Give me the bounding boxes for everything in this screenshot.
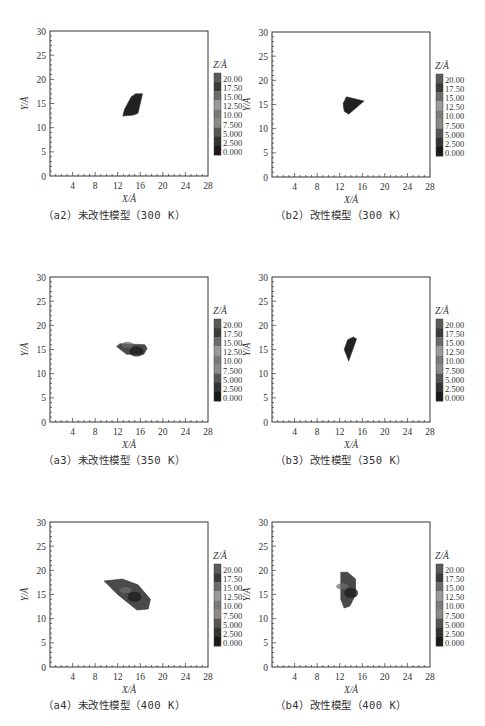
colorbar xyxy=(214,319,221,401)
y-tick-label: 5 xyxy=(41,393,46,403)
y-tick-label: 15 xyxy=(37,345,47,355)
chart-panel-a4: 481216202428051015202530X/ÅY/ÅZ/Å20.0017… xyxy=(0,490,242,726)
y-tick-label: 30 xyxy=(37,27,47,37)
x-tick-label: 20 xyxy=(380,672,390,682)
x-tick-label: 20 xyxy=(380,427,390,437)
y-tick-label: 10 xyxy=(37,369,47,379)
y-tick-label: 0 xyxy=(263,663,268,673)
panel-caption: （a2）未改性模型（300 K） xyxy=(43,207,185,222)
x-tick-label: 4 xyxy=(292,672,297,682)
y-tick-label: 0 xyxy=(41,418,46,428)
y-axis-label: Y/Å xyxy=(241,97,252,111)
chart-panel-a3: 481216202428051015202530X/ÅY/ÅZ/Å20.0017… xyxy=(0,245,242,485)
colorbar-tick-label: 0.000 xyxy=(445,638,464,648)
x-tick-label: 24 xyxy=(403,672,413,682)
x-tick-label: 12 xyxy=(335,427,345,437)
x-axis-label: X/Å xyxy=(343,684,358,695)
y-tick-label: 10 xyxy=(37,123,47,133)
y-tick-label: 15 xyxy=(259,345,269,355)
y-tick-label: 30 xyxy=(259,273,269,283)
y-tick-label: 10 xyxy=(259,124,269,134)
x-tick-label: 16 xyxy=(136,427,146,437)
contour-region xyxy=(104,579,150,610)
colorbar-tick-label: 0.000 xyxy=(445,148,464,158)
contour-region xyxy=(344,337,356,361)
x-tick-label: 28 xyxy=(203,181,213,191)
panel-caption: （a3）未改性模型（350 K） xyxy=(43,452,185,467)
chart-panel-a2: 481216202428051015202530X/ÅY/ÅZ/Å20.0017… xyxy=(0,0,242,240)
x-tick-label: 8 xyxy=(93,181,98,191)
x-axis-label: X/Å xyxy=(343,194,358,205)
y-tick-label: 20 xyxy=(37,75,47,85)
x-tick-label: 12 xyxy=(335,182,345,192)
colorbar-title: Z/Å xyxy=(213,59,227,70)
x-tick-label: 4 xyxy=(70,672,75,682)
colorbar-tick-label: 0.000 xyxy=(445,393,464,403)
y-axis-label: Y/Å xyxy=(19,342,30,356)
x-tick-label: 16 xyxy=(136,181,146,191)
y-tick-label: 30 xyxy=(37,518,47,528)
y-tick-label: 30 xyxy=(259,28,269,38)
y-tick-label: 10 xyxy=(259,369,269,379)
colorbar xyxy=(436,319,443,401)
colorbar-title: Z/Å xyxy=(435,550,449,561)
x-tick-label: 8 xyxy=(315,182,320,192)
colorbar-title: Z/Å xyxy=(213,550,227,561)
x-tick-label: 4 xyxy=(70,181,75,191)
x-tick-label: 20 xyxy=(380,182,390,192)
x-tick-label: 28 xyxy=(425,672,435,682)
y-tick-label: 15 xyxy=(259,590,269,600)
y-axis-label: Y/Å xyxy=(19,96,30,110)
x-tick-label: 28 xyxy=(203,672,213,682)
x-tick-label: 12 xyxy=(113,672,123,682)
y-tick-label: 20 xyxy=(37,321,47,331)
x-tick-label: 24 xyxy=(403,182,413,192)
x-tick-label: 28 xyxy=(203,427,213,437)
y-tick-label: 20 xyxy=(37,566,47,576)
x-tick-label: 12 xyxy=(113,181,123,191)
y-tick-label: 15 xyxy=(259,100,269,110)
y-tick-label: 25 xyxy=(37,542,47,552)
y-tick-label: 5 xyxy=(263,638,268,648)
y-axis-label: Y/Å xyxy=(19,587,30,601)
y-tick-label: 10 xyxy=(37,614,47,624)
colorbar-title: Z/Å xyxy=(435,305,449,316)
x-tick-label: 4 xyxy=(292,427,297,437)
y-tick-label: 25 xyxy=(259,52,269,62)
x-tick-label: 24 xyxy=(181,672,191,682)
y-tick-label: 10 xyxy=(259,614,269,624)
x-tick-label: 8 xyxy=(315,672,320,682)
y-tick-label: 5 xyxy=(263,148,268,158)
x-tick-label: 20 xyxy=(158,181,168,191)
x-tick-label: 12 xyxy=(113,427,123,437)
x-axis-label: X/Å xyxy=(343,439,358,450)
contour-region xyxy=(123,94,143,116)
x-tick-label: 4 xyxy=(70,427,75,437)
x-tick-label: 12 xyxy=(335,672,345,682)
x-tick-label: 16 xyxy=(136,672,146,682)
x-tick-label: 16 xyxy=(358,427,368,437)
y-axis-label: Y/Å xyxy=(241,587,252,601)
y-tick-label: 30 xyxy=(37,273,47,283)
y-tick-label: 25 xyxy=(37,297,47,307)
y-tick-label: 20 xyxy=(259,76,269,86)
colorbar xyxy=(436,74,443,156)
chart-panel-b4: 481216202428051015202530X/ÅY/ÅZ/Å20.0017… xyxy=(240,490,482,726)
panel-caption: （b2）改性模型（300 K） xyxy=(275,207,407,222)
colorbar xyxy=(436,564,443,646)
x-tick-label: 16 xyxy=(358,672,368,682)
contour-region xyxy=(343,97,364,114)
y-tick-label: 0 xyxy=(263,418,268,428)
y-axis-label: Y/Å xyxy=(241,342,252,356)
y-tick-label: 25 xyxy=(259,542,269,552)
y-tick-label: 15 xyxy=(37,590,47,600)
x-tick-label: 16 xyxy=(358,182,368,192)
y-tick-label: 20 xyxy=(259,566,269,576)
x-tick-label: 24 xyxy=(181,181,191,191)
y-tick-label: 0 xyxy=(41,172,46,182)
x-tick-label: 24 xyxy=(403,427,413,437)
colorbar xyxy=(214,564,221,646)
chart-panel-b2: 481216202428051015202530X/ÅY/ÅZ/Å20.0017… xyxy=(240,0,482,240)
x-axis-label: X/Å xyxy=(121,439,136,450)
y-tick-label: 5 xyxy=(41,147,46,157)
